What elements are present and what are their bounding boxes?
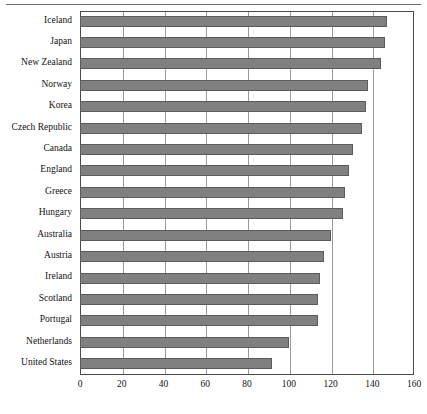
bar-japan <box>80 37 385 48</box>
category-label-japan: Japan <box>50 36 72 47</box>
bar-new-zealand <box>80 58 381 69</box>
category-label-scotland: Scotland <box>39 293 72 304</box>
category-label-ireland: Ireland <box>45 271 72 282</box>
x-tick-label-60: 60 <box>201 379 211 389</box>
bar-ireland <box>80 273 320 284</box>
x-tick-label-40: 40 <box>159 379 169 389</box>
bar-canada <box>80 144 353 155</box>
category-axis-labels: IcelandJapanNew ZealandNorwayKoreaCzech … <box>0 11 76 375</box>
x-tick-label-80: 80 <box>242 379 252 389</box>
category-label-hungary: Hungary <box>39 207 72 218</box>
category-label-czech-republic: Czech Republic <box>12 122 72 133</box>
category-label-canada: Canada <box>44 143 73 154</box>
bar-united-states <box>80 358 272 369</box>
top-divider-rule <box>6 4 421 5</box>
value-axis-tick-labels: 020406080100120140160 <box>80 379 414 403</box>
bar-australia <box>80 230 331 241</box>
bar-greece <box>80 187 345 198</box>
x-tick-label-120: 120 <box>323 379 337 389</box>
category-label-iceland: Iceland <box>44 15 72 26</box>
category-label-australia: Australia <box>37 229 72 240</box>
category-label-england: England <box>40 164 72 175</box>
bar-iceland <box>80 16 387 27</box>
category-label-greece: Greece <box>45 186 72 197</box>
bar-czech-republic <box>80 123 362 134</box>
x-tick-label-160: 160 <box>407 379 421 389</box>
category-label-new-zealand: New Zealand <box>21 57 72 68</box>
bar-netherlands <box>80 337 289 348</box>
bar-chart: IcelandJapanNew ZealandNorwayKoreaCzech … <box>0 0 427 414</box>
x-tick-label-140: 140 <box>365 379 379 389</box>
category-label-portugal: Portugal <box>40 314 72 325</box>
category-label-netherlands: Netherlands <box>26 336 72 347</box>
category-label-austria: Austria <box>44 250 72 261</box>
bars-group <box>80 11 414 375</box>
bar-england <box>80 165 349 176</box>
x-tick-label-20: 20 <box>117 379 127 389</box>
x-tick-label-0: 0 <box>78 379 83 389</box>
bar-portugal <box>80 315 318 326</box>
category-label-norway: Norway <box>41 79 72 90</box>
bar-hungary <box>80 208 343 219</box>
category-label-united-states: United States <box>21 357 72 368</box>
bar-austria <box>80 251 324 262</box>
x-tick-label-100: 100 <box>282 379 296 389</box>
category-label-korea: Korea <box>49 100 72 111</box>
bar-norway <box>80 80 368 91</box>
bar-scotland <box>80 294 318 305</box>
bar-korea <box>80 101 366 112</box>
